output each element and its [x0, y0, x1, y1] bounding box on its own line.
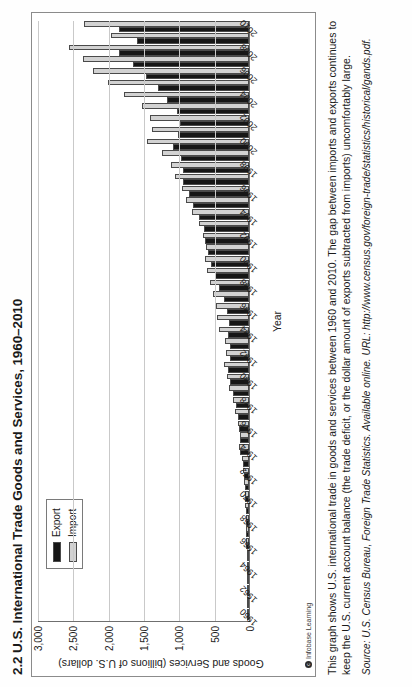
bar-import	[142, 103, 249, 108]
bar-export	[133, 62, 249, 67]
bar-export	[178, 132, 249, 137]
bar-import	[217, 315, 249, 320]
legend-label-export: Export	[51, 508, 62, 537]
figure-source: Source: U.S. Census Bureau, Foreign Trad…	[360, 12, 373, 675]
bar-import	[152, 127, 249, 132]
gridline	[109, 21, 110, 621]
gridline	[144, 21, 145, 621]
y-tick-label: 1,500	[139, 626, 150, 651]
y-axis-ticklabels: 05001,0001,5002,0002,5003,000	[38, 624, 250, 654]
bar-export	[137, 38, 249, 43]
bar-import	[207, 268, 249, 273]
gridline	[73, 21, 74, 621]
y-tick-label: 1,000	[174, 626, 185, 651]
bar-export	[119, 27, 249, 32]
copyright-credit: c Infobase Learning	[305, 603, 312, 668]
bar-import	[162, 150, 249, 155]
bar-export	[247, 579, 249, 584]
figure-frame: Goods and Services (billions of U.S. dol…	[31, 12, 316, 677]
bar-import	[69, 45, 249, 50]
page-title: 2.2 U.S. International Trade Goods and S…	[10, 10, 25, 675]
bar-import	[213, 291, 249, 296]
bar-export	[173, 144, 249, 149]
legend-item-export: Export	[51, 508, 62, 562]
bar-import	[147, 139, 249, 144]
credit-label: Infobase Learning	[305, 603, 312, 659]
bar-export	[183, 179, 249, 184]
plot-canvas: Export Import	[38, 21, 250, 622]
bar-export	[247, 602, 249, 607]
gridline	[179, 21, 180, 621]
bar-import	[150, 115, 249, 120]
x-axis-title: Year	[271, 21, 283, 622]
gridline	[215, 21, 216, 621]
bar-import	[206, 244, 249, 249]
y-tick-label: 3,000	[33, 626, 44, 651]
bar-import	[175, 174, 249, 179]
bar-import	[93, 68, 249, 73]
copyright-icon: c	[305, 661, 312, 668]
y-tick-label: 2,000	[103, 626, 114, 651]
y-axis-title: Goods and Services (billions of U.S. dol…	[38, 656, 284, 670]
y-tick-label: 2,500	[68, 626, 79, 651]
chart-legend: Export Import	[46, 499, 83, 569]
bar-export	[233, 391, 249, 396]
figure-page: 2.2 U.S. International Trade Goods and S…	[0, 0, 412, 687]
plot-wrapper: 05001,0001,5002,0002,5003,000 Export Imp…	[38, 19, 284, 654]
bar-export	[193, 203, 249, 208]
bar-export	[183, 168, 249, 173]
bar-export	[146, 74, 249, 79]
figure-caption: This graph shows U.S. international trad…	[325, 15, 353, 675]
bar-import	[124, 92, 249, 97]
bar-import	[186, 197, 249, 202]
bar-export	[177, 109, 249, 114]
chart-area: Goods and Services (billions of U.S. dol…	[38, 19, 284, 670]
bar-export	[247, 555, 249, 560]
bar-export	[119, 50, 249, 55]
bar-export	[158, 85, 249, 90]
legend-swatch-export-icon	[53, 542, 61, 562]
bar-import	[199, 221, 249, 226]
gridline	[38, 21, 39, 621]
y-tick-label: 500	[209, 626, 220, 643]
